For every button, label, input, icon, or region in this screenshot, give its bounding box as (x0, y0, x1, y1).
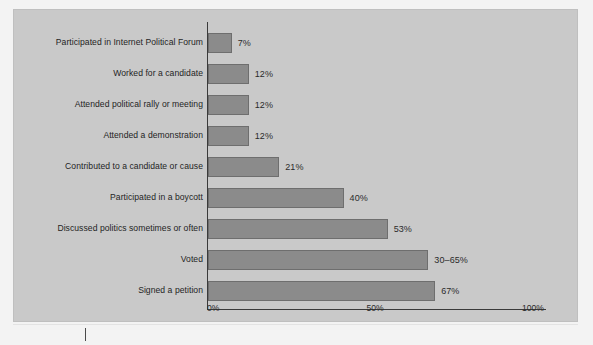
category-label: Attended political rally or meeting (23, 99, 203, 109)
bar (208, 126, 249, 146)
bar (208, 219, 388, 239)
bar (208, 188, 344, 208)
bar-row: 53% (208, 219, 547, 239)
x-tick-label: 100% (522, 303, 544, 313)
bar-value-label: 30–65% (434, 255, 468, 265)
bar-row: 7% (208, 33, 547, 53)
category-axis-labels: Participated in Internet Political Forum… (21, 22, 203, 310)
category-label: Discussed politics sometimes or often (23, 223, 203, 233)
bar-value-label: 53% (394, 224, 412, 234)
bar-value-label: 40% (350, 193, 368, 203)
bar-row: 12% (208, 95, 547, 115)
category-label: Participated in a boycott (23, 192, 203, 202)
chart-panel: Participated in Internet Political Forum… (13, 9, 578, 322)
category-label: Signed a petition (23, 285, 203, 295)
bar (208, 281, 435, 301)
bar (208, 95, 249, 115)
figure: Participated in Internet Political Forum… (0, 0, 593, 345)
category-label: Voted (23, 254, 203, 264)
bar-row: 40% (208, 188, 547, 208)
bar (208, 33, 232, 53)
x-tick-label: 0% (207, 303, 219, 313)
bar-row: 12% (208, 64, 547, 84)
bar-value-label: 12% (255, 100, 273, 110)
bar-value-label: 7% (238, 38, 251, 48)
bar-value-label: 12% (255, 69, 273, 79)
bar-value-label: 67% (441, 286, 459, 296)
bar-value-label: 12% (255, 131, 273, 141)
category-label: Participated in Internet Political Forum (23, 37, 203, 47)
bar-value-label: 21% (285, 162, 303, 172)
bar-row: 30–65% (208, 250, 547, 270)
bar-row: 12% (208, 126, 547, 146)
bar (208, 64, 249, 84)
bar-row: 67% (208, 281, 547, 301)
plot-area: 7%12%12%12%21%40%53%30–65%67% (207, 22, 546, 310)
bar (208, 250, 428, 270)
category-label: Contributed to a candidate or cause (23, 161, 203, 171)
category-label: Worked for a candidate (23, 68, 203, 78)
footer-tick-mark (85, 328, 86, 341)
bar (208, 157, 279, 177)
bar-row: 21% (208, 157, 547, 177)
footer-divider (13, 324, 578, 325)
category-label: Attended a demonstration (23, 130, 203, 140)
x-tick-label: 50% (367, 303, 384, 313)
